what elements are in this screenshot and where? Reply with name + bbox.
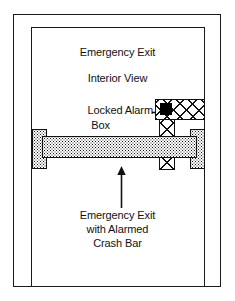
alarm-box-stem (159, 119, 175, 137)
alarm-box-label-line-1: Locked Alarm (48, 103, 153, 117)
page-title-line-2: Interior View (0, 71, 235, 85)
alarm-box-label-line-2: Box (48, 118, 153, 132)
lock-indicator-icon (160, 103, 172, 115)
emergency-exit-diagram: Emergency Exit Interior View Locked Alar… (0, 0, 235, 301)
page-title-line-1: Emergency Exit (0, 45, 235, 59)
crash-bar-caption-line-3: Crash Bar (0, 236, 235, 250)
crash-bar-caption: Emergency Exit with Alarmed Crash Bar (0, 208, 235, 250)
crash-bar-caption-line-2: with Alarmed (0, 222, 235, 236)
arrow-up-icon (116, 166, 127, 208)
crash-bar-caption-line-1: Emergency Exit (0, 208, 235, 222)
horizontal-push-bar (42, 136, 197, 158)
